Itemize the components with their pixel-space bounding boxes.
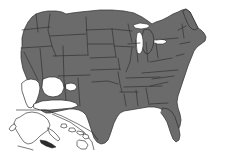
hawaii-island-kauai (61, 124, 67, 128)
state-nevada-arizona-unfilled[interactable] (42, 77, 64, 97)
state-southwest-notch-unfilled[interactable] (66, 83, 77, 91)
us-map-svg (0, 0, 226, 162)
us-map-figure: United States Contiguous United States H… (0, 0, 226, 162)
hawaii-island-maui (83, 134, 89, 139)
